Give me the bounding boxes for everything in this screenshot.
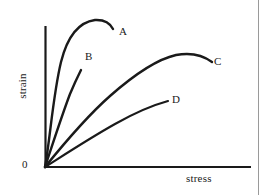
curve-label-a: A [119,25,127,37]
x-axis-label: stress [186,172,212,184]
axes-group [45,26,251,167]
y-axis-label: strain [16,60,28,112]
curves-group [45,20,212,167]
curve-label-b: B [85,50,92,62]
curve-label-d: D [172,93,180,105]
curve-B [45,70,81,167]
curve-label-c: C [214,55,221,67]
origin-label: 0 [22,158,28,170]
stress-strain-plot [0,0,268,195]
figure-canvas: strain stress 0 A B C D [0,0,268,195]
